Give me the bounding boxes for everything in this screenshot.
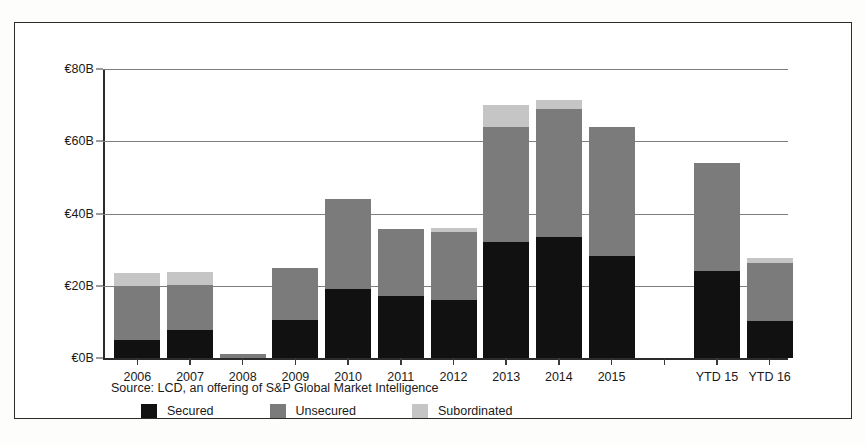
y-tick-mark xyxy=(96,141,103,142)
chart-legend: SecuredUnsecuredSubordinated xyxy=(141,404,568,418)
bar-segment-unsecured xyxy=(167,285,213,330)
bar-ytd-16[interactable] xyxy=(747,258,793,358)
bar-segment-secured xyxy=(694,271,740,358)
y-tick-label: €20B xyxy=(64,279,94,293)
x-tick-mark xyxy=(242,358,244,365)
x-tick-mark xyxy=(611,358,613,365)
bar-2011[interactable] xyxy=(378,229,424,358)
bar-segment-secured xyxy=(483,242,529,358)
x-tick-mark xyxy=(453,358,455,365)
x-tick-label: 2013 xyxy=(492,370,520,384)
x-tick-mark xyxy=(664,358,666,365)
gridline xyxy=(103,141,788,142)
bar-segment-unsecured xyxy=(431,232,477,301)
x-tick-mark xyxy=(189,358,191,365)
legend-label: Unsecured xyxy=(296,404,356,418)
legend-label: Subordinated xyxy=(438,404,512,418)
x-tick-mark xyxy=(716,358,718,365)
bar-segment-subordinated xyxy=(483,105,529,127)
y-tick-mark xyxy=(96,69,103,70)
x-tick-mark xyxy=(347,358,349,365)
bar-segment-secured xyxy=(536,237,582,358)
bar-segment-unsecured xyxy=(272,268,318,320)
plot-area: €80B€60B€40B€20B€0B 20062007200820092010… xyxy=(103,69,788,358)
bar-segment-unsecured xyxy=(325,199,371,289)
bar-ytd-15[interactable] xyxy=(694,163,740,358)
x-tick-mark xyxy=(400,358,402,365)
bar-segment-secured xyxy=(431,300,477,358)
gridline xyxy=(103,214,788,215)
bar-segment-unsecured xyxy=(378,229,424,296)
legend-item-unsecured[interactable]: Unsecured xyxy=(270,404,356,418)
gridline xyxy=(103,69,788,70)
legend-swatch-secured xyxy=(141,404,157,418)
bar-segment-unsecured xyxy=(483,127,529,243)
bar-segment-secured xyxy=(272,320,318,358)
x-tick-label: 2014 xyxy=(545,370,573,384)
category-axis xyxy=(103,358,788,360)
y-tick-mark xyxy=(96,285,103,286)
bar-segment-unsecured xyxy=(536,109,582,237)
bar-segment-subordinated xyxy=(167,272,213,285)
x-tick-label: YTD 16 xyxy=(748,370,790,384)
x-tick-mark xyxy=(769,358,771,365)
bar-segment-subordinated xyxy=(536,100,582,109)
x-tick-mark xyxy=(137,358,139,365)
y-tick-label: €40B xyxy=(64,207,94,221)
bar-segment-unsecured xyxy=(694,163,740,272)
bar-2013[interactable] xyxy=(483,105,529,358)
bar-segment-secured xyxy=(325,289,371,358)
bar-2010[interactable] xyxy=(325,199,371,358)
bar-segment-unsecured xyxy=(747,263,793,321)
bar-2015[interactable] xyxy=(589,127,635,358)
legend-swatch-unsecured xyxy=(270,404,286,418)
x-tick-label: 2012 xyxy=(440,370,468,384)
x-tick-mark xyxy=(558,358,560,365)
y-tick-mark xyxy=(96,358,103,359)
legend-swatch-subordinated xyxy=(412,404,428,418)
bar-segment-secured xyxy=(167,330,213,358)
x-tick-label: 2015 xyxy=(598,370,626,384)
bar-segment-secured xyxy=(378,296,424,358)
bar-segment-secured xyxy=(589,256,635,358)
source-note: Source: LCD, an offering of S&P Global M… xyxy=(111,381,439,395)
x-tick-mark xyxy=(505,358,507,365)
legend-item-secured[interactable]: Secured xyxy=(141,404,214,418)
y-tick-label: €80B xyxy=(64,62,94,76)
bar-2009[interactable] xyxy=(272,268,318,358)
y-tick-label: €60B xyxy=(64,134,94,148)
bar-segment-secured xyxy=(747,321,793,358)
bar-2006[interactable] xyxy=(114,273,160,358)
bar-2012[interactable] xyxy=(431,228,477,358)
bar-2007[interactable] xyxy=(167,272,213,358)
bar-segment-secured xyxy=(114,340,160,358)
bar-segment-subordinated xyxy=(114,273,160,286)
chart-figure-frame: €80B€60B€40B€20B€0B 20062007200820092010… xyxy=(14,22,852,419)
y-tick-mark xyxy=(96,213,103,214)
y-tick-label: €0B xyxy=(71,351,94,365)
legend-label: Secured xyxy=(167,404,214,418)
legend-item-subordinated[interactable]: Subordinated xyxy=(412,404,512,418)
bar-segment-unsecured xyxy=(589,127,635,256)
x-tick-mark xyxy=(295,358,297,365)
x-tick-label: YTD 15 xyxy=(696,370,738,384)
bar-segment-unsecured xyxy=(114,286,160,340)
bar-2014[interactable] xyxy=(536,100,582,358)
